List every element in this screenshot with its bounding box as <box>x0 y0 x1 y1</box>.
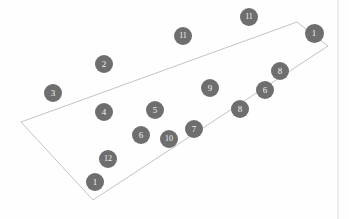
data-point-marker[interactable]: 11 <box>174 27 192 45</box>
data-point-marker[interactable]: 11 <box>240 8 258 26</box>
data-point-marker[interactable]: 9 <box>201 79 219 97</box>
data-point-label: 8 <box>278 66 283 75</box>
data-point-label: 6 <box>263 85 268 94</box>
data-point-marker[interactable]: 3 <box>44 84 62 102</box>
data-point-marker[interactable]: 1 <box>86 173 104 191</box>
data-point-label: 6 <box>139 130 144 139</box>
diagram-canvas: 11111283964586107121 <box>0 0 349 219</box>
data-point-label: 11 <box>179 32 187 40</box>
data-point-marker[interactable]: 12 <box>99 150 117 168</box>
data-point-marker[interactable]: 1 <box>305 24 324 43</box>
data-point-marker[interactable]: 4 <box>95 103 113 121</box>
data-point-marker[interactable]: 10 <box>160 130 178 148</box>
data-point-marker[interactable]: 5 <box>146 101 164 119</box>
region-outline-polygon <box>21 22 328 200</box>
data-point-label: 4 <box>102 107 107 116</box>
data-point-label: 8 <box>238 104 243 113</box>
data-point-marker[interactable]: 2 <box>95 55 113 73</box>
data-point-label: 5 <box>153 105 158 114</box>
data-point-label: 7 <box>192 124 197 133</box>
data-point-label: 1 <box>312 28 317 37</box>
data-point-label: 9 <box>208 83 213 92</box>
data-point-marker[interactable]: 6 <box>132 126 150 144</box>
data-point-marker[interactable]: 8 <box>271 62 289 80</box>
data-point-marker[interactable]: 8 <box>231 100 249 118</box>
data-point-label: 12 <box>104 155 112 163</box>
data-point-label: 3 <box>51 88 56 97</box>
data-point-marker[interactable]: 7 <box>185 120 203 138</box>
data-point-label: 1 <box>93 177 98 186</box>
data-point-label: 2 <box>102 59 107 68</box>
data-point-marker[interactable]: 6 <box>256 81 274 99</box>
data-point-label: 11 <box>245 13 253 21</box>
data-point-label: 10 <box>165 135 173 143</box>
